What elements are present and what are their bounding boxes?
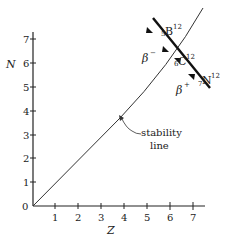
x-tick-6: 6 (167, 212, 173, 223)
svg-text:12: 12 (186, 53, 195, 61)
y-tick-7: 7 (23, 34, 29, 45)
svg-text:+: + (184, 81, 190, 89)
beta-plus-label: β + (175, 81, 190, 97)
y-tick-4: 4 (23, 106, 29, 117)
x-tick-4: 4 (121, 212, 127, 223)
svg-text:−: − (150, 49, 156, 57)
nuclide-n12-label: 7 N 12 (198, 72, 220, 88)
stability-leader-line (121, 117, 141, 134)
y-axis-label: N (5, 58, 16, 71)
y-tick-5: 5 (23, 82, 29, 93)
beta-minus-arrow-icon (162, 46, 169, 52)
nuclide-b12-label: 5 B 12 (161, 23, 182, 38)
stability-label-line1: stability (141, 127, 182, 138)
x-tick-7: 7 (190, 212, 196, 223)
svg-text:β: β (175, 84, 182, 97)
nuclide-chart-diagram: 0 1 2 3 4 5 6 7 1 2 3 4 5 6 7 N Z stabil… (0, 0, 225, 239)
beta-minus-label: β − (141, 49, 156, 65)
svg-text:12: 12 (173, 23, 182, 31)
origin-label: 0 (22, 201, 28, 212)
y-tick-2: 2 (23, 153, 29, 164)
stability-label-line2: line (150, 140, 169, 151)
x-tick-2: 2 (75, 212, 81, 223)
y-tick-3: 3 (23, 130, 29, 141)
x-tick-1: 1 (52, 212, 58, 223)
svg-text:β: β (141, 52, 148, 65)
svg-text:12: 12 (211, 72, 220, 80)
beta-plus-arrow-icon (188, 74, 195, 80)
x-tick-5: 5 (144, 212, 150, 223)
stability-line (33, 8, 203, 206)
beta-minus-arrow-icon (146, 27, 153, 33)
y-tick-6: 6 (23, 58, 29, 69)
y-tick-1: 1 (23, 177, 29, 188)
svg-text:B: B (165, 25, 173, 38)
x-axis-label: Z (106, 224, 115, 237)
x-tick-3: 3 (98, 212, 104, 223)
